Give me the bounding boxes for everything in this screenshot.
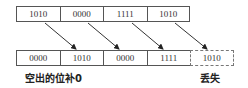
bottom-cell-1: 1010 — [60, 50, 104, 66]
lost-label: 丢失 — [200, 70, 220, 85]
shift-arrow-icon — [88, 23, 119, 49]
shift-arrow-icon — [175, 23, 207, 49]
bottom-cell-3: 1111 — [147, 50, 191, 66]
result-register-row: 0000 1010 0000 1111 1010 — [16, 50, 234, 66]
shift-arrow-icon — [45, 23, 76, 49]
fill-zero-label: 空出的位补0 — [25, 70, 82, 85]
shift-arrow-icon — [132, 23, 163, 49]
lost-cell: 1010 — [190, 50, 234, 66]
bottom-cell-0: 0000 — [16, 50, 60, 66]
bottom-cell-2: 0000 — [103, 50, 147, 66]
